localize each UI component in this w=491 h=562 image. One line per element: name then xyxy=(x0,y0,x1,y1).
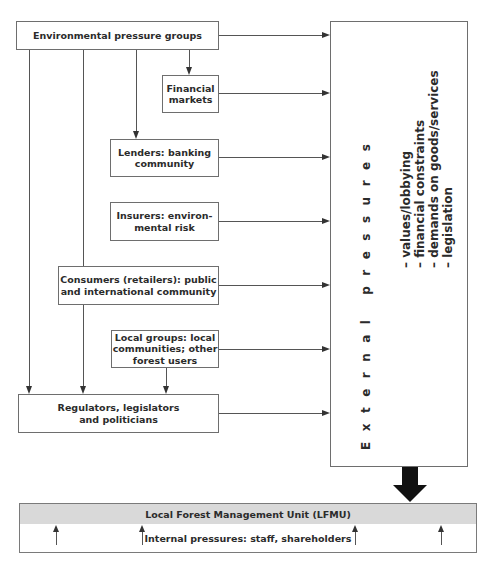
arrow-financial-to-external xyxy=(219,93,322,94)
external-pressure-item: – demands on goods/services xyxy=(428,70,441,268)
financial-markets-box: Financial markets xyxy=(162,75,219,113)
external-pressures-title: External pressures xyxy=(359,134,373,450)
arrow-consumers-to-external xyxy=(219,285,322,286)
arrowhead-right-icon xyxy=(322,218,330,224)
arrowhead-down-icon xyxy=(26,386,32,394)
insurers-box: Insurers: environ- mental risk xyxy=(110,202,219,241)
regulators-box: Regulators, legislators and politicians xyxy=(18,394,219,433)
financial-markets-label-line2: markets xyxy=(169,94,213,106)
connector-env-to-regulators-mid xyxy=(83,50,84,266)
environmental-pressure-groups-label: Environmental pressure groups xyxy=(33,30,202,42)
external-pressures-box: External pressures – values/lobbying – f… xyxy=(330,21,468,467)
local-groups-box: Local groups: local communities; other f… xyxy=(111,330,219,368)
arrowhead-down-icon xyxy=(163,386,169,394)
environmental-pressure-groups-box: Environmental pressure groups xyxy=(16,21,219,50)
local-groups-label-line2: communities; other xyxy=(113,343,218,355)
connector-env-to-financial xyxy=(189,50,190,67)
connector-local-to-regulators xyxy=(166,368,167,386)
lenders-label-line1: Lenders: banking xyxy=(118,147,211,159)
internal-arrow-2 xyxy=(142,531,143,545)
arrow-env-to-external xyxy=(219,35,322,36)
arrowhead-right-icon xyxy=(322,154,330,160)
arrowhead-up-icon xyxy=(352,525,358,532)
arrowhead-right-icon xyxy=(322,410,330,416)
arrow-regulators-to-external xyxy=(219,413,322,414)
arrowhead-up-icon xyxy=(139,525,145,532)
regulators-label-line1: Regulators, legislators xyxy=(58,402,180,414)
connector-env-to-regulators-left xyxy=(29,50,30,386)
lfmu-title: Local Forest Management Unit (LFMU) xyxy=(145,509,351,520)
arrowhead-up-icon xyxy=(438,525,444,532)
lfmu-internal-pressures: Internal pressures: staff, shareholders xyxy=(19,524,477,553)
arrow-insurers-to-external xyxy=(219,221,322,222)
big-arrow-head-icon xyxy=(393,485,427,502)
arrow-local-to-external xyxy=(219,349,322,350)
connector-consumers-to-regulators xyxy=(83,305,84,386)
internal-arrow-4 xyxy=(441,531,442,545)
arrowhead-down-icon xyxy=(80,386,86,394)
external-pressure-item: – legislation xyxy=(442,187,455,268)
insurers-label-line2: mental risk xyxy=(134,222,195,234)
lenders-box: Lenders: banking community xyxy=(110,139,219,177)
arrowhead-right-icon xyxy=(322,32,330,38)
external-pressure-item: – financial constraints xyxy=(414,120,427,268)
consumers-box: Consumers (retailers): public and intern… xyxy=(58,266,219,305)
consumers-label-line1: Consumers (retailers): public xyxy=(60,274,216,286)
internal-arrow-1 xyxy=(56,531,57,545)
local-groups-label-line3: forest users xyxy=(133,355,198,367)
insurers-label-line1: Insurers: environ- xyxy=(117,210,213,222)
regulators-label-line2: and politicians xyxy=(79,414,158,426)
arrowhead-right-icon xyxy=(322,90,330,96)
local-groups-label-line1: Local groups: local xyxy=(115,332,216,344)
arrow-lenders-to-external xyxy=(219,157,322,158)
arrowhead-down-icon xyxy=(133,131,139,139)
lfmu-header: Local Forest Management Unit (LFMU) xyxy=(19,503,477,525)
connector-env-to-lenders xyxy=(136,50,137,131)
arrowhead-up-icon xyxy=(53,525,59,532)
financial-markets-label-line1: Financial xyxy=(166,83,214,95)
consumers-label-line2: and international community xyxy=(61,286,217,298)
lenders-label-line2: community xyxy=(135,158,194,170)
arrowhead-down-icon xyxy=(186,67,192,75)
arrowhead-right-icon xyxy=(322,282,330,288)
big-arrow-down-icon xyxy=(402,467,418,485)
external-pressure-item: – values/lobbying xyxy=(400,151,413,268)
internal-pressures-label: Internal pressures: staff, shareholders xyxy=(145,533,352,544)
arrowhead-right-icon xyxy=(322,346,330,352)
internal-arrow-3 xyxy=(355,531,356,545)
